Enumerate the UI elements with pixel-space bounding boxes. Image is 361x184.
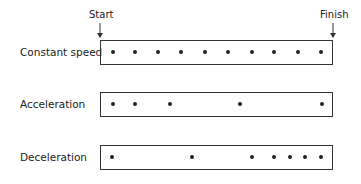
position-dot <box>110 155 114 159</box>
position-dot <box>168 102 172 106</box>
position-dot <box>133 50 137 54</box>
position-dot <box>111 102 115 106</box>
position-dot <box>272 155 276 159</box>
position-dot <box>179 50 183 54</box>
position-dot <box>288 155 292 159</box>
motion-track <box>100 145 333 170</box>
finish-arrow-icon <box>329 23 337 39</box>
start-arrow-icon <box>96 23 104 39</box>
position-dot <box>250 155 254 159</box>
row-label: Deceleration <box>20 151 87 163</box>
position-dot <box>303 155 307 159</box>
position-dot <box>250 50 254 54</box>
position-dot <box>111 50 115 54</box>
position-dot <box>133 102 137 106</box>
position-dot <box>238 102 242 106</box>
row-label: Acceleration <box>20 98 85 110</box>
position-dot <box>226 50 230 54</box>
position-dot <box>190 155 194 159</box>
position-dot <box>156 50 160 54</box>
start-label: Start <box>89 9 113 20</box>
row-label: Constant speed <box>20 46 102 58</box>
position-dot <box>319 155 323 159</box>
finish-label: Finish <box>320 9 348 20</box>
position-dot <box>319 50 323 54</box>
position-dot <box>203 50 207 54</box>
position-dot <box>320 102 324 106</box>
position-dot <box>296 50 300 54</box>
position-dot <box>272 50 276 54</box>
